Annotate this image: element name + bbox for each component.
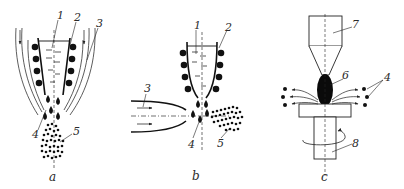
label-powder: 5 [217,138,224,149]
label-molten-drop: 6 [342,70,349,81]
diagram-drawing [0,0,404,189]
droplet-icon [191,100,209,123]
panel-c [281,14,383,176]
crucible-icon [38,30,70,170]
powder-particles-icon [211,106,244,132]
label-crucible: 1 [57,10,64,21]
panel-a [16,20,98,170]
label-rotating-disk: 8 [352,138,359,149]
label-particles: 4 [384,72,391,83]
powder-particles-icon [41,123,65,160]
label-electrode-holder: 7 [352,19,359,30]
caption-a: a [49,171,56,183]
atomization-methods-diagram: 1 2 3 4 5 a 1 2 3 4 5 b 7 6 4 8 c [0,0,404,189]
caption-c: c [321,171,328,183]
electrode-holder-icon [309,16,342,75]
label-droplets: 4 [32,129,39,140]
ejection-arrows-right-icon [332,90,360,104]
crucible-icon [187,32,217,150]
label-droplets: 4 [188,139,195,150]
label-gas-flow: 3 [96,18,103,29]
label-heating-coil: 2 [74,12,81,23]
caption-b: b [192,170,200,182]
label-crucible: 1 [194,20,201,31]
droplet-icon [43,95,60,120]
label-powder: 5 [73,126,80,137]
label-heating-coil: 2 [225,22,232,33]
label-gas-nozzle: 3 [144,83,151,94]
ejection-arrows-left-icon [290,90,318,104]
